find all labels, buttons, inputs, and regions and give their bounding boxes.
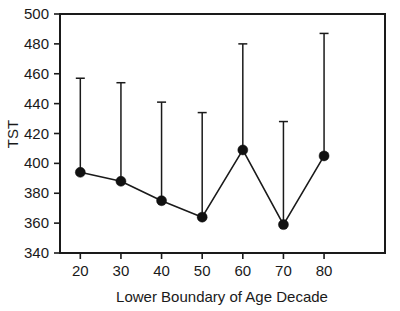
x-tick-label: 70 <box>275 262 292 279</box>
data-point-marker <box>238 145 248 155</box>
x-tick-label: 40 <box>153 262 170 279</box>
y-tick-label: 440 <box>24 95 49 112</box>
y-tick-label: 400 <box>24 154 49 171</box>
plot-area-background <box>60 14 385 253</box>
data-point-marker <box>319 151 329 161</box>
y-tick-label: 360 <box>24 214 49 231</box>
chart-canvas: 340360380400420440460480500 203040506070… <box>0 0 400 311</box>
y-tick-label: 420 <box>24 125 49 142</box>
chart-figure: 340360380400420440460480500 203040506070… <box>0 0 400 311</box>
y-tick-label: 380 <box>24 184 49 201</box>
y-axis-ticks: 340360380400420440460480500 <box>24 5 60 261</box>
y-axis-title: TST <box>4 120 21 148</box>
x-axis-title: Lower Boundary of Age Decade <box>116 288 328 305</box>
y-tick-label: 340 <box>24 244 49 261</box>
x-tick-label: 60 <box>234 262 251 279</box>
x-tick-label: 50 <box>194 262 211 279</box>
data-point-marker <box>116 176 126 186</box>
y-tick-label: 460 <box>24 65 49 82</box>
y-tick-label: 480 <box>24 35 49 52</box>
data-point-marker <box>157 196 167 206</box>
x-tick-label: 20 <box>72 262 89 279</box>
data-point-marker <box>278 220 288 230</box>
data-point-marker <box>197 212 207 222</box>
x-tick-label: 80 <box>316 262 333 279</box>
y-tick-label: 500 <box>24 5 49 22</box>
x-tick-label: 30 <box>113 262 130 279</box>
data-point-marker <box>75 167 85 177</box>
